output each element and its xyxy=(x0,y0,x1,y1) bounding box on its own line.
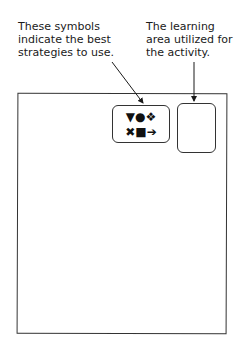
pointer-arrows xyxy=(0,0,247,350)
symbols-arrow-icon xyxy=(112,62,143,103)
